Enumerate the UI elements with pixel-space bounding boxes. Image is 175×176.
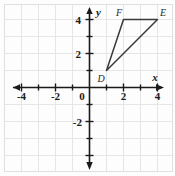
coordinate-plane-figure: y x -4 -2 0 2 4 4 2 -2 D F E	[0, 0, 175, 176]
y-tick-label-pos4: 4	[76, 14, 82, 26]
vertex-label-e: E	[159, 7, 166, 18]
origin-label: 0	[79, 90, 85, 102]
y-axis-title: y	[94, 6, 101, 18]
x-axis-title: x	[151, 71, 158, 83]
vertex-label-f: F	[115, 7, 123, 18]
y-tick-label-neg2: -2	[73, 116, 83, 128]
x-tick-label-pos4: 4	[155, 90, 161, 102]
x-tick-label-neg2: -2	[51, 90, 61, 102]
coordinate-plane-svg: y x -4 -2 0 2 4 4 2 -2 D F E	[0, 0, 175, 176]
vertex-label-d: D	[96, 73, 105, 84]
x-tick-label-pos2: 2	[121, 90, 127, 102]
x-tick-label-neg4: -4	[17, 90, 27, 102]
y-tick-label-pos2: 2	[76, 48, 82, 60]
